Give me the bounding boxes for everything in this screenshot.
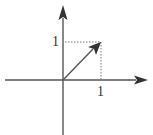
y-tick-label: 1 <box>52 35 59 49</box>
vector-arrow <box>63 42 101 80</box>
vector-diagram <box>0 0 153 135</box>
x-axis <box>5 76 148 85</box>
x-tick-label: 1 <box>97 85 104 99</box>
y-axis-arrow-icon <box>59 5 68 20</box>
x-axis-arrow-icon <box>134 76 148 85</box>
y-axis <box>59 5 68 135</box>
